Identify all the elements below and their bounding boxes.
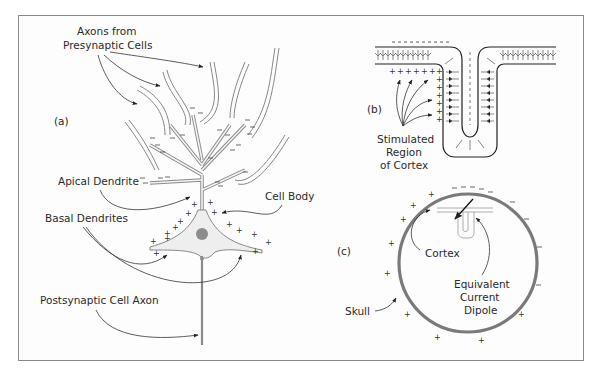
basal-dendrites-label: Basal Dendrites — [45, 212, 128, 224]
svg-text:+: + — [164, 234, 171, 243]
neuron-glyphs-top — [375, 50, 556, 60]
panel-a: (a) Axons from Presynaptic Cells — [40, 25, 314, 345]
dipole-arrow — [455, 199, 473, 219]
svg-text:+: + — [428, 190, 435, 199]
cortex-mini — [437, 208, 493, 238]
panel-b-label: (b) — [367, 103, 382, 115]
svg-text:+: + — [251, 230, 258, 239]
neuro-diagram: (a) Axons from Presynaptic Cells — [0, 0, 599, 385]
cortex-label: Cortex — [425, 247, 460, 259]
axons-arrows — [98, 52, 203, 104]
svg-text:+: + — [400, 215, 407, 224]
cell-body-label: Cell Body — [265, 190, 314, 202]
svg-text:+: + — [172, 223, 179, 232]
svg-text:+: + — [252, 247, 259, 256]
panel-c-label: (c) — [337, 245, 351, 257]
svg-text:+: + — [389, 67, 396, 76]
svg-text:+: + — [226, 220, 233, 229]
axons-label-line1: Axons from — [77, 25, 136, 37]
panel-c: (c) ++ ++ ++ ++ + Cortex Equivalen — [337, 187, 542, 345]
apical-dendrite-label: Apical Dendrite — [58, 175, 139, 187]
postsynaptic-axon-label: Postsynaptic Cell Axon — [40, 294, 159, 306]
svg-text:+: + — [404, 310, 411, 319]
stimulated-label-line1: Stimulated — [377, 133, 434, 145]
dipole-label-line1: Equivalent — [454, 278, 510, 290]
panel-a-label: (a) — [54, 115, 69, 127]
svg-text:+: + — [384, 269, 391, 278]
svg-text:+: + — [518, 310, 525, 319]
svg-text:+: + — [236, 226, 243, 235]
svg-text:+: + — [434, 333, 441, 342]
svg-text:+: + — [478, 336, 485, 345]
svg-text:+: + — [397, 67, 404, 76]
stimulated-arrows — [397, 80, 432, 126]
svg-text:+: + — [421, 67, 428, 76]
svg-text:+: + — [207, 198, 214, 207]
dipole-label-line2: Current — [460, 291, 499, 303]
svg-text:+: + — [153, 249, 160, 258]
skull-label: Skull — [345, 305, 370, 317]
svg-text:+: + — [405, 67, 412, 76]
svg-text:+: + — [429, 67, 436, 76]
svg-text:+: + — [388, 239, 395, 248]
stimulated-label-line2: Region — [386, 146, 422, 158]
svg-text:+: + — [436, 115, 443, 124]
nucleus — [196, 228, 208, 240]
svg-text:+: + — [191, 200, 198, 209]
svg-text:+: + — [150, 237, 157, 246]
svg-text:+: + — [211, 208, 218, 217]
stimulated-label-line3: of Cortex — [380, 159, 428, 171]
dipole-label-line3: Dipole — [464, 304, 497, 316]
svg-text:+: + — [413, 67, 420, 76]
svg-text:+: + — [410, 201, 417, 210]
svg-text:+: + — [185, 209, 192, 218]
axons-label-line2: Presynaptic Cells — [63, 39, 152, 51]
svg-text:+: + — [265, 238, 272, 247]
panel-b: (b) ++ ++ ++ + ++ ++ ++ — [367, 42, 556, 171]
